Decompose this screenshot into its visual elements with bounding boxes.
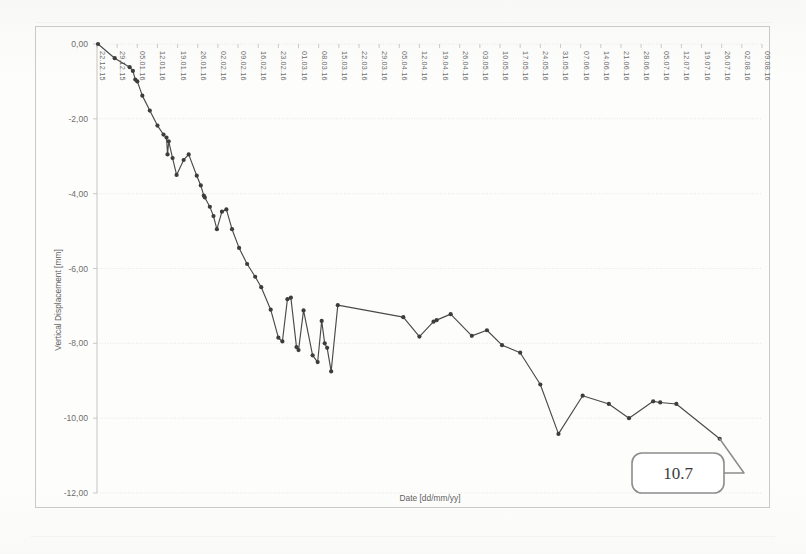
data-point (485, 328, 489, 332)
x-tick-label: 29.03.16 (380, 51, 389, 81)
data-point (237, 246, 241, 250)
data-point (113, 56, 117, 60)
data-point (500, 343, 504, 347)
data-point (96, 42, 100, 46)
data-point (627, 416, 631, 420)
vertical-displacement-chart: 0,00 -2,00 -4,00 -6,00 -8,00 -10,00 -12,… (0, 0, 806, 554)
x-tick-label: 08.03.16 (320, 51, 329, 81)
x-tick-label: 31.05.16 (561, 51, 570, 81)
data-point (155, 123, 159, 127)
data-point (187, 152, 191, 156)
data-point (316, 360, 320, 364)
data-point (434, 318, 438, 322)
data-point (131, 69, 135, 73)
data-point (607, 402, 611, 406)
data-point (253, 275, 257, 279)
y-tick-label--12: -12,00 (64, 488, 89, 498)
data-point (211, 214, 215, 218)
data-point (224, 207, 228, 211)
x-tick-label: 28.06.16 (642, 51, 651, 81)
x-tick-label: 02.08.16 (743, 51, 752, 81)
data-point (401, 315, 405, 319)
x-tick-label: 10.05.16 (501, 51, 510, 81)
x-tick-label: 15.03.16 (340, 51, 349, 81)
y-gridline-group (97, 44, 762, 493)
data-point (417, 335, 421, 339)
data-point (329, 369, 333, 373)
data-point (175, 173, 179, 177)
x-tick-label: 09.08.16 (763, 51, 772, 81)
data-point (203, 195, 207, 199)
data-point (140, 94, 144, 98)
data-point (199, 183, 203, 187)
x-tick-label: 22.12.15 (98, 51, 107, 81)
data-point (170, 156, 174, 160)
callout-label: 10.7 (663, 464, 693, 483)
x-tick-label: 19.07.16 (703, 51, 712, 81)
data-point (581, 394, 585, 398)
x-axis-title: Date [dd/mm/yy] (400, 493, 461, 503)
data-point (182, 158, 186, 162)
data-point (269, 308, 273, 312)
x-tick-label: 21.06.16 (622, 51, 631, 81)
data-point (259, 285, 263, 289)
x-tick-label: 12.07.16 (682, 51, 691, 81)
data-point (148, 109, 152, 113)
data-point (167, 139, 171, 143)
y-tick-label--10: -10,00 (64, 413, 89, 423)
data-point (556, 432, 560, 436)
data-point (518, 351, 522, 355)
x-tick-label: 16.02.16 (259, 51, 268, 81)
x-tick-label: 12.04.16 (420, 51, 429, 81)
y-tick-label-0: 0,00 (71, 39, 88, 49)
x-tick-label: 12.01.16 (158, 51, 167, 81)
series-marker-group (96, 42, 722, 441)
data-point (674, 402, 678, 406)
data-point (320, 319, 324, 323)
x-tick-label: 05.04.16 (400, 51, 409, 81)
data-point (128, 65, 132, 69)
data-point (301, 308, 305, 312)
x-tick-label: 03.05.16 (481, 51, 490, 81)
data-point (245, 262, 249, 266)
data-point (470, 334, 474, 338)
y-tick-label--2: -2,00 (68, 114, 88, 124)
x-tick-label: 02.02.16 (219, 51, 228, 81)
x-tick-label: 05.07.16 (662, 51, 671, 81)
value-callout: 10.7 (632, 439, 744, 493)
x-tick-label: 23.02.16 (279, 51, 288, 81)
data-point (135, 79, 139, 83)
data-series-vertical-displacement (96, 42, 722, 441)
x-tick-label: 01.03.16 (300, 51, 309, 81)
data-point (276, 336, 280, 340)
data-point (323, 341, 327, 345)
data-point (296, 348, 300, 352)
y-tick-label--6: -6,00 (68, 264, 88, 274)
y-tick-label--4: -4,00 (68, 189, 88, 199)
data-point (280, 339, 284, 343)
data-point (311, 353, 315, 357)
chart-canvas: 0,00 -2,00 -4,00 -6,00 -8,00 -10,00 -12,… (0, 0, 806, 554)
series-line (98, 44, 720, 439)
data-point (164, 135, 168, 139)
x-tick-label: 14.06.16 (602, 51, 611, 81)
x-axis: 22.12.1529.12.1505.01.1612.01.1619.01.16… (97, 44, 772, 81)
data-point (658, 400, 662, 404)
y-axis: 0,00 -2,00 -4,00 -6,00 -8,00 -10,00 -12,… (53, 39, 762, 498)
x-tick-label: 09.02.16 (239, 51, 248, 81)
data-point (538, 382, 542, 386)
x-tick-label: 17.05.16 (521, 51, 530, 81)
data-point (195, 174, 199, 178)
data-point (325, 346, 329, 350)
data-point (230, 227, 234, 231)
plot-frame (36, 27, 770, 508)
x-tick-label: 26.01.16 (199, 51, 208, 81)
x-tick-label: 05.01.16 (138, 51, 147, 81)
data-point (161, 132, 165, 136)
y-axis-title: Vertical Displacement [mm] (53, 249, 63, 350)
y-tick-label--8: -8,00 (68, 338, 88, 348)
data-point (289, 296, 293, 300)
data-point (449, 312, 453, 316)
data-point (651, 399, 655, 403)
data-point (336, 303, 340, 307)
